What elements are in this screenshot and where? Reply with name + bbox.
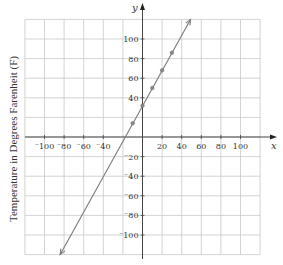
- y-tick-label: 40: [128, 94, 138, 103]
- x-axis-arrow-icon: [270, 135, 277, 140]
- data-point: [131, 121, 135, 125]
- data-point: [151, 86, 155, 90]
- x-tick-label: 40: [177, 142, 187, 151]
- x-axis-label: x: [271, 140, 277, 151]
- x-tick-label: 80: [216, 142, 226, 151]
- data-point: [141, 104, 145, 108]
- y-axis-letter: y: [131, 2, 138, 13]
- y-tick-label: ⁻40: [124, 172, 138, 181]
- y-axis-arrow-icon: [140, 3, 145, 10]
- y-tick-label: ⁻100: [119, 231, 139, 240]
- data-point: [160, 69, 164, 73]
- y-axis-title: Temperature in Degrees Farenheit (F): [7, 56, 20, 222]
- y-tick-label: ⁻20: [124, 153, 138, 162]
- y-tick-label: ⁻80: [124, 211, 138, 220]
- y-tick-label: 100: [123, 35, 138, 44]
- y-tick-label: 80: [128, 55, 138, 64]
- y-tick-label: 60: [128, 74, 138, 83]
- axes: [25, 3, 277, 259]
- x-tick-label: 20: [157, 142, 167, 151]
- x-tick-label: 60: [196, 142, 206, 151]
- data-point: [170, 51, 174, 55]
- x-tick-label: ⁻40: [96, 142, 110, 151]
- y-tick-label: ⁻60: [124, 192, 138, 201]
- chart: ⁻100⁻80⁻60⁻4020406080100 100806040⁻20⁻40…: [0, 0, 283, 265]
- x-tick-label: ⁻80: [57, 142, 71, 151]
- x-tick-label: ⁻60: [76, 142, 90, 151]
- x-tick-label: 100: [233, 142, 248, 151]
- x-tick-label: ⁻100: [35, 142, 55, 151]
